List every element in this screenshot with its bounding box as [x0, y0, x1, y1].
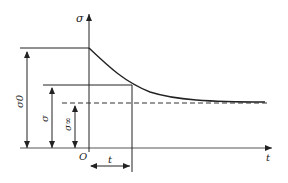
- time-interval-label: t: [108, 154, 113, 165]
- stress-relaxation-diagram: σ t O t σ0 σ σ∞: [0, 0, 288, 183]
- sigma0-label: σ0: [14, 94, 25, 108]
- sigma-label: σ: [39, 114, 50, 122]
- origin-label: O: [79, 151, 87, 162]
- sigma-axis-label: σ: [76, 12, 84, 25]
- relaxation-curve: [89, 48, 265, 102]
- sigma-inf-label: σ∞: [63, 117, 73, 131]
- t-axis-label: t: [266, 152, 271, 163]
